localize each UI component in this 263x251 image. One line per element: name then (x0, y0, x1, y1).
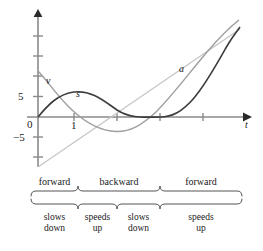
speed-brace (31, 199, 242, 209)
speed-band-line2: down (31, 223, 78, 234)
y-tick-label-0: 0 (27, 119, 33, 130)
speed-band-line1: speeds (160, 212, 242, 223)
speed-band-line1: slows (31, 212, 78, 223)
y-tick-label-5: 5 (18, 91, 24, 102)
direction-band-forward-1: forward (31, 177, 78, 187)
curve-label-s: s (76, 89, 80, 99)
x-axis-label: t (245, 120, 248, 130)
speed-band-line2: up (160, 223, 242, 234)
speed-band-speeds-up-2: speeds up (160, 212, 242, 233)
speed-band-line1: speeds (78, 212, 117, 223)
speed-band-line1: slows (117, 212, 160, 223)
axes-group (27, 9, 252, 167)
x-tick-label-1: 1 (71, 120, 77, 131)
y-tick-label-minus5: −5 (13, 132, 25, 143)
curve-s-position (38, 27, 240, 117)
direction-band-forward-2: forward (160, 177, 242, 187)
y-axis-arrow-icon (34, 9, 43, 17)
speed-band-line2: up (78, 223, 117, 234)
curve-label-a: a (179, 64, 184, 74)
motion-figure: 5 0 −5 1 t v s a forward backward forwar… (0, 0, 263, 251)
speed-band-slows-down-1: slows down (31, 212, 78, 233)
speed-band-slows-down-2: slows down (117, 212, 160, 233)
direction-brace (31, 186, 242, 196)
speed-band-line2: down (117, 223, 160, 234)
direction-band-backward: backward (78, 177, 160, 187)
curve-label-v: v (46, 76, 50, 86)
speed-band-speeds-up-1: speeds up (78, 212, 117, 233)
